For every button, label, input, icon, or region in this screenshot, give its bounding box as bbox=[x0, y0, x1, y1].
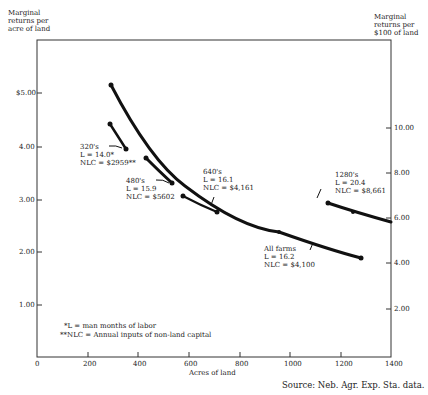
series-1280s bbox=[328, 203, 391, 222]
x-tick-label: 600 bbox=[184, 360, 197, 368]
y-tick-label: 3.00 bbox=[19, 196, 35, 204]
footnote-labor: *L = man months of labor bbox=[64, 322, 156, 330]
footnote-capital: **NLC = Annual inputs of non-land capita… bbox=[60, 331, 211, 339]
label-320s: 320'sL = 14.0*NLC = $2959** bbox=[80, 143, 136, 167]
y-tick-label: 2.00 bbox=[19, 248, 35, 256]
x-tick-label: 1400 bbox=[385, 360, 403, 368]
y-tick-label: $5.00 bbox=[16, 89, 36, 97]
y2-tick-label: 6.00 bbox=[394, 214, 410, 222]
y-tick-label: 1.00 bbox=[19, 301, 35, 309]
y2-tick-label: 10.00 bbox=[394, 124, 414, 132]
x-tick-label: 1000 bbox=[284, 360, 302, 368]
label-1280s: 1280'sL = 20.4NLC = $8,661 bbox=[335, 171, 386, 195]
y2-tick-label: 2.00 bbox=[394, 305, 410, 313]
x-tick-label: 0 bbox=[35, 360, 39, 368]
x-axis-title: Acres of land bbox=[189, 369, 236, 377]
x-tick-label: 1200 bbox=[335, 360, 353, 368]
x-tick-label: 200 bbox=[83, 360, 96, 368]
label-all-farms: All farmsL = 16.2NLC = $4,100 bbox=[264, 245, 315, 269]
y-tick-label: 4.00 bbox=[19, 143, 35, 151]
x-ticks bbox=[88, 352, 341, 357]
x-tick-label: 400 bbox=[133, 360, 146, 368]
label-480s: 480'sL = 15.9NLC = $5602 bbox=[126, 177, 175, 201]
label-640s: 640'sL = 16.1NLC = $4,161 bbox=[203, 168, 254, 192]
y-ticks bbox=[37, 93, 42, 305]
y2-tick-label: 8.00 bbox=[394, 169, 410, 177]
left-axis-title: Marginalreturns peracre of land bbox=[8, 9, 50, 33]
y2-ticks bbox=[386, 128, 391, 309]
x-tick-label: 800 bbox=[235, 360, 248, 368]
source-note: Source: Neb. Agr. Exp. Sta. data. bbox=[282, 380, 425, 390]
y2-tick-label: 4.00 bbox=[394, 259, 410, 267]
right-axis-title: Marginalreturns per$100 of land bbox=[374, 13, 418, 37]
plot-frame bbox=[37, 40, 391, 357]
